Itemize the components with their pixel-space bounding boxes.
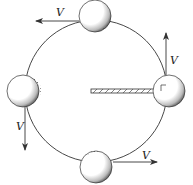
ball-bottom bbox=[80, 151, 112, 183]
velocity-label-top: V bbox=[56, 6, 65, 19]
velocity-label-right: V bbox=[170, 54, 179, 67]
rod bbox=[91, 89, 154, 93]
ball-left bbox=[7, 75, 41, 107]
circular-motion-diagram: V V V V bbox=[0, 0, 193, 185]
velocity-label-bottom: V bbox=[142, 149, 151, 162]
ball-right bbox=[152, 75, 185, 107]
velocity-label-left: V bbox=[16, 120, 25, 133]
ball-top bbox=[79, 0, 112, 32]
